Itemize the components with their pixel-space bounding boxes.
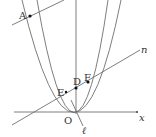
parabola-outer bbox=[22, 0, 121, 113]
line-l bbox=[71, 100, 83, 126]
label-l: ℓ bbox=[82, 125, 86, 136]
label-e: E bbox=[57, 87, 64, 98]
label-n: n bbox=[141, 44, 147, 55]
point-e bbox=[65, 91, 67, 93]
x-axis-arrow-dot bbox=[136, 111, 138, 113]
label-o: O bbox=[64, 115, 72, 126]
label-d: D bbox=[73, 76, 81, 87]
geometry-diagram: A D E F O n ℓ x bbox=[0, 0, 156, 137]
label-a: A bbox=[18, 10, 27, 21]
label-x-axis: x bbox=[139, 112, 145, 123]
point-a bbox=[28, 14, 31, 17]
label-f: F bbox=[84, 72, 91, 83]
parabola-inner bbox=[37, 0, 108, 113]
